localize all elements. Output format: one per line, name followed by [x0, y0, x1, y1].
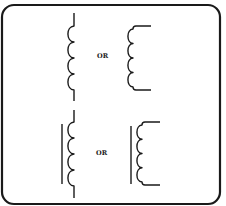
diagram-frame	[2, 5, 220, 204]
or-separator-label-top: OR	[97, 52, 109, 60]
row-iron-core: OR	[62, 110, 160, 198]
inductor-air-core-vertical-leads-icon	[68, 13, 74, 101]
inductor-iron-core-vertical-leads-icon	[68, 110, 74, 198]
or-separator-label-bottom: OR	[96, 149, 108, 157]
inductor-iron-core-horizontal-leads-icon	[137, 122, 160, 185]
inductor-air-core-horizontal-leads-icon	[128, 26, 151, 90]
inductor-symbols-diagram: OR OR	[0, 0, 226, 206]
row-air-core: OR	[68, 13, 151, 101]
